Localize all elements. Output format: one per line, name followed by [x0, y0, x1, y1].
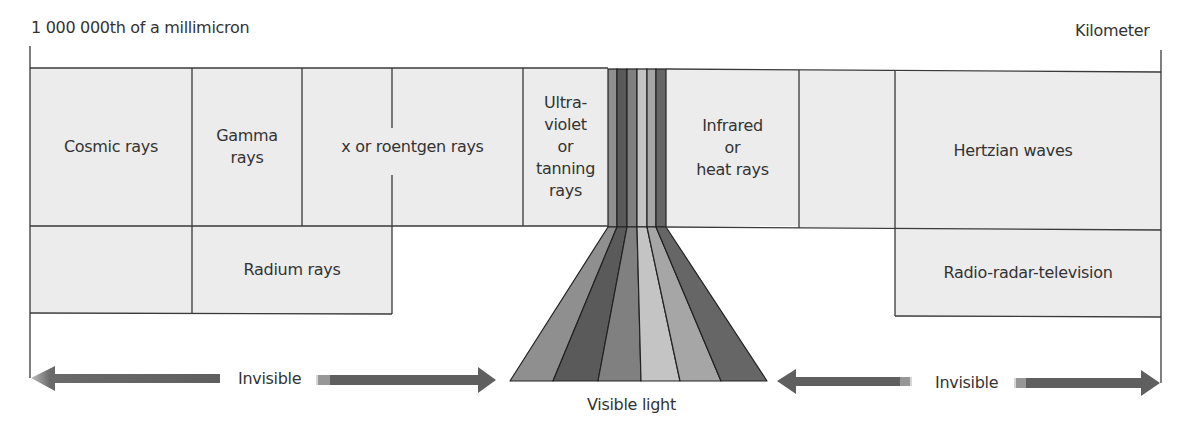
visible-light-label: Visible light [587, 395, 676, 414]
invisible-right-label: Invisible [935, 373, 998, 392]
spectrum-diagram-graphics [0, 0, 1183, 425]
invisible-left-label: Invisible [238, 369, 301, 388]
visible-bands-fan [510, 227, 767, 381]
visible-bands-vertical [608, 69, 666, 227]
